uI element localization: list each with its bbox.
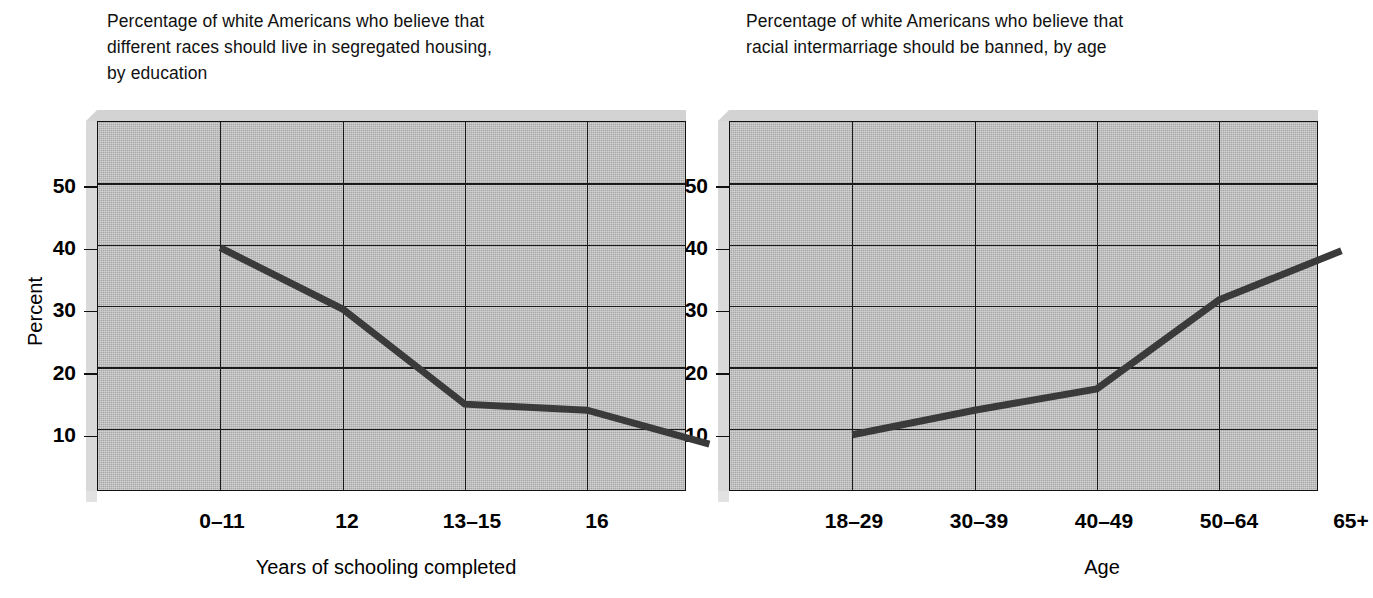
gridline-v-2 <box>343 122 344 490</box>
gridline-v-2 <box>975 122 976 490</box>
ytick-mark-20 <box>84 373 97 374</box>
gridline-v-3 <box>1097 122 1098 490</box>
plot-area-education <box>86 110 686 502</box>
xtick-label-65plus: 65+ <box>1333 509 1369 533</box>
xtick-label-12: 12 <box>335 509 358 533</box>
axis-title-y-education: Percent <box>24 252 47 372</box>
plot-bottom-corner <box>718 491 729 502</box>
gridline-v-1 <box>852 122 853 490</box>
xtick-label-0-11: 0–11 <box>199 509 245 533</box>
two-panel-line-chart-figure: Percentage of white Americans who believ… <box>0 0 1373 598</box>
plot-top-face <box>718 110 1318 121</box>
xtick-label-16: 16 <box>585 509 608 533</box>
ytick-mark-10 <box>84 436 97 437</box>
ytick-mark-10 <box>716 436 729 437</box>
gridline-v-3 <box>465 122 466 490</box>
xtick-label-40-49: 40–49 <box>1075 509 1133 533</box>
ytick-mark-20 <box>716 373 729 374</box>
plot-bottom-corner <box>86 491 97 502</box>
gridline-h-30 <box>730 306 1317 307</box>
gridline-h-20 <box>98 367 685 368</box>
gridline-h-50 <box>730 183 1317 184</box>
gridline-v-1 <box>220 122 221 490</box>
ytick-mark-50 <box>84 186 97 187</box>
panel-title-education: Percentage of white Americans who believ… <box>107 8 627 86</box>
chart-panel-age: Percentage of white Americans who believ… <box>687 0 1373 598</box>
xtick-label-30-39: 30–39 <box>950 509 1008 533</box>
axis-title-x-age: Age <box>1084 556 1120 579</box>
ytick-mark-40 <box>84 249 97 250</box>
gridline-h-20 <box>730 367 1317 368</box>
xtick-label-50-64: 50–64 <box>1200 509 1258 533</box>
plot-canvas <box>97 121 686 491</box>
chart-panel-education: Percentage of white Americans who believ… <box>0 0 686 598</box>
gridline-v-4 <box>1219 122 1220 490</box>
gridline-h-10 <box>98 429 685 430</box>
gridline-h-30 <box>98 306 685 307</box>
xtick-label-18-29: 18–29 <box>825 509 883 533</box>
ytick-mark-30 <box>84 311 97 312</box>
plot-top-face <box>86 110 686 121</box>
plot-area-age <box>718 110 1318 502</box>
plot-canvas <box>729 121 1318 491</box>
ytick-mark-30 <box>716 311 729 312</box>
gridline-v-4 <box>587 122 588 490</box>
gridline-h-40 <box>98 245 685 246</box>
gridline-h-10 <box>730 429 1317 430</box>
ytick-label-50: 50 <box>30 174 76 198</box>
ytick-mark-50 <box>716 186 729 187</box>
panel-title-age: Percentage of white Americans who believ… <box>746 8 1266 60</box>
xtick-label-13-15: 13–15 <box>443 509 501 533</box>
gridline-h-40 <box>730 245 1317 246</box>
axis-title-x-education: Years of schooling completed <box>256 556 517 579</box>
ytick-label-10: 10 <box>30 423 76 447</box>
ytick-mark-40 <box>716 249 729 250</box>
gridline-h-50 <box>98 183 685 184</box>
